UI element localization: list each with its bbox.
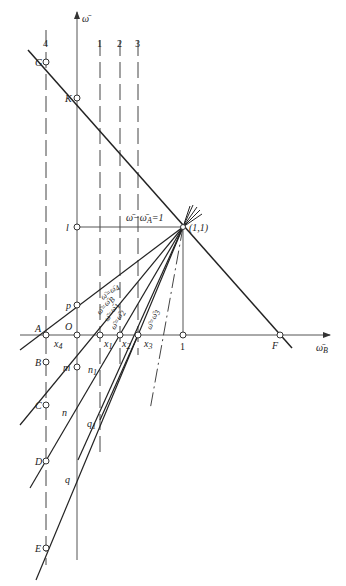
label-K: K <box>64 93 73 104</box>
label-B: B <box>35 357 41 368</box>
label-n: n <box>62 407 67 418</box>
column-label-1: 1 <box>97 38 102 49</box>
ray-omega-B <box>20 227 183 425</box>
label-m: m <box>63 362 70 373</box>
label-F: F <box>271 340 279 351</box>
column-label-4: 4 <box>43 38 48 49</box>
tick-one: 1 <box>180 341 185 352</box>
ray-omega-1 <box>30 227 183 488</box>
y-axis-label: ω̄ <box>82 13 92 24</box>
label-D: D <box>34 456 43 467</box>
label-E: E <box>34 543 41 554</box>
label-q: q <box>65 474 70 485</box>
label-G: G <box>35 57 42 68</box>
column-label-3: 3 <box>135 38 140 49</box>
label-O: O <box>65 321 72 332</box>
x-axis-label: ω̄B <box>316 342 328 355</box>
label-p: p <box>65 300 71 311</box>
label-q1: q1 <box>87 418 96 431</box>
label-C: C <box>35 400 42 411</box>
label-x1: x1 <box>103 338 112 351</box>
ray-omega-2 <box>36 227 183 580</box>
label-x2: x2 <box>121 338 130 351</box>
label-A: A <box>34 323 42 334</box>
column-label-2: 2 <box>117 38 122 49</box>
label-n1: n1 <box>88 364 97 377</box>
label-pivot: (1,1) <box>189 222 209 234</box>
label-x3: x3 <box>143 338 152 351</box>
label-x4: x4 <box>53 338 62 351</box>
ray-omega-4 <box>20 227 183 350</box>
eq-omega-A: ω̄−ω̄A=1 <box>126 212 164 225</box>
lever-diagram: ω̄ ω̄B 1 4 1 2 3 G K l (1,1) F A O p B m… <box>0 0 346 586</box>
label-l: l <box>66 222 69 233</box>
